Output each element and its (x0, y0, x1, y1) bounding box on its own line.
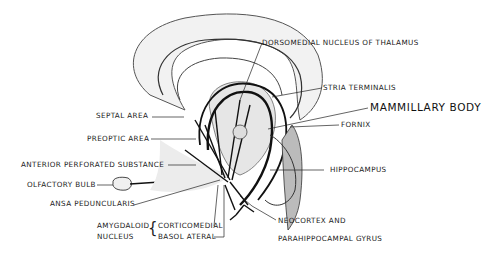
mammillary-body-shape (233, 125, 247, 139)
leader-fornix (290, 125, 339, 127)
limbic-diagram: DORSOMEDIAL NUCLEUS OF THALAMUSSTRIA TER… (0, 0, 488, 257)
label-basolateral: BASOL ATERAL (158, 233, 216, 240)
label-amygdaloid2: NUCLEUS (97, 233, 134, 240)
label-dorsomedial: DORSOMEDIAL NUCLEUS OF THALAMUS (262, 39, 419, 46)
label-olfactory: OLFACTORY BULB (27, 181, 96, 188)
label-mammillary: MAMMILLARY BODY (370, 102, 481, 113)
olfactory-bulb-shape (113, 177, 132, 190)
leader-corticomedial (214, 185, 218, 226)
label-septal: SEPTAL AREA (96, 112, 148, 119)
label-fornix: FORNIX (341, 121, 371, 128)
brainstem-shape (282, 125, 302, 230)
label-neocortex2: PARAHIPPOCAMPAL GYRUS (278, 235, 382, 242)
amygdala-brace: { (148, 221, 158, 236)
label-amygdaloid1: AMYGDALOID (97, 222, 149, 229)
label-hippocampus: HIPPOCAMPUS (330, 166, 387, 173)
label-preoptic: PREOPTIC AREA (87, 135, 149, 142)
label-stria: STRIA TERMINALIS (323, 84, 396, 91)
label-neocortex1: NEOCORTEX AND (278, 217, 346, 224)
label-ansa: ANSA PEDUNCULARIS (50, 200, 135, 207)
label-corticomedial: CORTICOMEDIAL (158, 222, 223, 229)
label-aps: ANTERIOR PERFORATED SUBSTANCE (21, 161, 164, 168)
